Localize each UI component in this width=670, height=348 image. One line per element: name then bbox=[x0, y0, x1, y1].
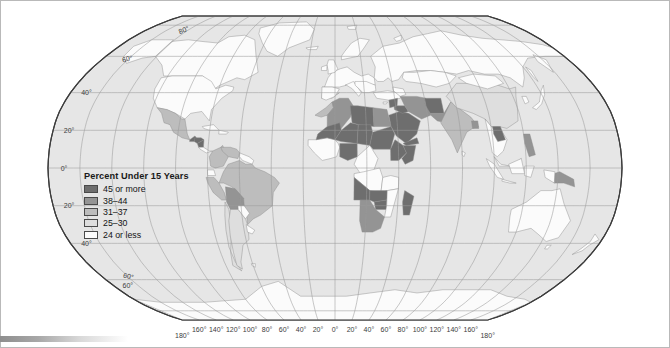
longitude-label: 20° bbox=[313, 326, 324, 333]
legend-label: 45 or more bbox=[103, 184, 146, 194]
legend-swatch bbox=[84, 208, 98, 216]
latitude-label: 20° bbox=[64, 202, 75, 209]
longitude-label: 100° bbox=[243, 326, 258, 333]
longitude-label: 20° bbox=[347, 326, 358, 333]
longitude-label: 100° bbox=[413, 326, 428, 333]
legend-label: 38–44 bbox=[103, 196, 127, 206]
country-area bbox=[374, 200, 387, 209]
legend-label: 31–37 bbox=[103, 207, 127, 217]
longitude-label: 140° bbox=[447, 326, 462, 333]
longitude-label: 160° bbox=[192, 326, 207, 333]
longitude-label: 140° bbox=[209, 326, 224, 333]
legend-label: 24 or less bbox=[103, 230, 141, 240]
longitude-label: 40° bbox=[296, 326, 307, 333]
legend-swatch bbox=[84, 197, 98, 205]
longitude-label: 40° bbox=[364, 326, 375, 333]
legend-swatch bbox=[84, 219, 98, 227]
legend-swatch bbox=[84, 185, 98, 193]
legend-item: 38–44 bbox=[84, 195, 189, 206]
longitude-label: 0° bbox=[332, 326, 339, 333]
longitude-label: 120° bbox=[226, 326, 241, 333]
country-area bbox=[207, 170, 215, 176]
legend-item: 31–37 bbox=[84, 206, 189, 217]
legend-title: Percent Under 15 Years bbox=[84, 171, 189, 181]
longitude-label: 80° bbox=[398, 326, 409, 333]
longitude-label: 160° bbox=[464, 326, 479, 333]
page-edge-artifact bbox=[0, 336, 128, 342]
legend-label: 25–30 bbox=[103, 218, 127, 228]
legend-item: 45 or more bbox=[84, 184, 189, 195]
latitude-label: 40° bbox=[81, 89, 92, 96]
longitude-label: 180° bbox=[175, 332, 190, 339]
world-map-figure: 80°60°40°20°0°20°40°60°180°160°140°120°1… bbox=[0, 0, 670, 348]
legend-item: 25–30 bbox=[84, 218, 189, 229]
map-legend: Percent Under 15 Years 45 or more38–4431… bbox=[84, 171, 189, 240]
legend-items: 45 or more38–4431–3725–3024 or less bbox=[84, 184, 189, 241]
country-area bbox=[472, 121, 479, 129]
latitude-label: 60° bbox=[123, 282, 134, 289]
latitude-label: 40° bbox=[81, 240, 92, 247]
legend-item: 24 or less bbox=[84, 229, 189, 240]
country-area bbox=[340, 144, 358, 161]
longitude-label: 60° bbox=[279, 326, 290, 333]
longitude-label: 80° bbox=[262, 326, 273, 333]
longitude-label: 180° bbox=[480, 332, 495, 339]
latitude-label: 20° bbox=[64, 127, 75, 134]
legend-swatch bbox=[84, 231, 98, 239]
latitude-label: 0° bbox=[61, 165, 68, 172]
longitude-label: 60° bbox=[381, 326, 392, 333]
longitude-label: 120° bbox=[430, 326, 445, 333]
